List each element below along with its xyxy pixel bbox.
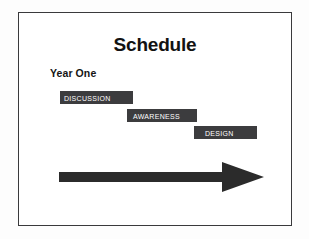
phase-bar: Awareness — [127, 109, 197, 122]
phase-bar: Design — [194, 126, 257, 139]
arrow-shape — [59, 162, 264, 192]
phase-bar-label: Awareness — [133, 111, 180, 121]
slide-canvas: Schedule Year One DiscussionAwarenessDes… — [18, 12, 292, 226]
phase-bar: Discussion — [60, 91, 133, 104]
slide-subtitle: Year One — [50, 67, 96, 79]
timeline-arrow — [59, 159, 265, 199]
page-title: Schedule — [19, 34, 291, 56]
phase-bar-label: Discussion — [64, 93, 111, 103]
phase-bar-label: Design — [205, 128, 234, 138]
